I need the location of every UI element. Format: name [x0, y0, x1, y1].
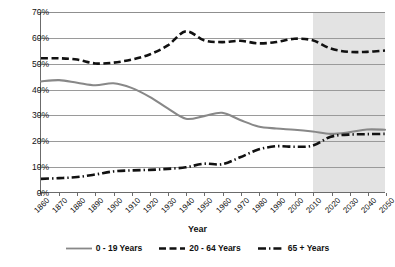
x-axis-tick-label: 2010 — [305, 196, 324, 215]
x-axis-tick-label: 1990 — [268, 196, 287, 215]
legend-swatch-dash-dot-icon — [258, 244, 284, 253]
legend-swatch-dashed-icon — [159, 244, 185, 253]
x-axis-tick-mark — [259, 193, 260, 196]
x-axis-tick-mark — [204, 193, 205, 196]
x-axis-tick-label: 1880 — [69, 196, 88, 215]
x-axis-tick-mark — [95, 193, 96, 196]
x-axis-tick-label: 1950 — [196, 196, 215, 215]
x-axis-tick-mark — [150, 193, 151, 196]
x-axis-tick-mark — [350, 193, 351, 196]
x-axis-tick-mark — [59, 193, 60, 196]
x-axis-tick-mark — [223, 193, 224, 196]
x-axis-tick-label: 1910 — [123, 196, 142, 215]
y-axis-tick-label: 40% — [9, 85, 49, 95]
x-axis-tick-label: 1970 — [232, 196, 251, 215]
legend-label: 20 - 64 Years — [189, 243, 240, 253]
y-axis-tick-label: 20% — [9, 136, 49, 146]
legend-item-3[interactable]: 65 + Years — [258, 243, 330, 253]
x-axis-tick-label: 2020 — [323, 196, 342, 215]
x-axis-tick-mark — [277, 193, 278, 196]
x-axis-tick-mark — [186, 193, 187, 196]
y-axis-tick-label: 50% — [9, 59, 49, 69]
x-axis-tick-mark — [332, 193, 333, 196]
y-axis-tick-label: 70% — [9, 7, 49, 17]
x-axis-tick-label: 2000 — [287, 196, 306, 215]
x-axis-tick-label: 1940 — [178, 196, 197, 215]
x-axis-tick-mark — [77, 193, 78, 196]
x-axis-tick-label: 1870 — [51, 196, 70, 215]
x-axis-tick-label: 2050 — [377, 196, 395, 215]
series-line-1 — [41, 80, 385, 134]
y-axis-tick-label: 30% — [9, 110, 49, 120]
legend-label: 0 - 19 Years — [96, 243, 143, 253]
x-axis-tick-label: 1900 — [105, 196, 124, 215]
x-axis-tick-mark — [368, 193, 369, 196]
x-axis-tick-mark — [114, 193, 115, 196]
legend-item-1[interactable]: 0 - 19 Years — [66, 243, 143, 253]
x-axis-tick-label: 1980 — [250, 196, 269, 215]
legend-label: 65 + Years — [288, 243, 330, 253]
plot-wrapper: 0%10%20%30%40%50%60%70% 1860187018801890… — [0, 0, 395, 200]
chart-legend: 0 - 19 Years20 - 64 Years65 + Years — [0, 243, 395, 253]
series-line-2 — [41, 31, 385, 63]
y-axis-tick-label: 60% — [9, 33, 49, 43]
x-axis-tick-mark — [132, 193, 133, 196]
x-axis-tick-label: 1930 — [160, 196, 179, 215]
legend-item-2[interactable]: 20 - 64 Years — [159, 243, 240, 253]
chart-figure: 0%10%20%30%40%50%60%70% 1860187018801890… — [0, 0, 395, 267]
x-axis-tick-label: 1920 — [141, 196, 160, 215]
plot-area — [40, 12, 385, 193]
x-axis-tick-mark — [168, 193, 169, 196]
y-axis-tick-label: 10% — [9, 162, 49, 172]
legend-swatch-solid-icon — [66, 244, 92, 253]
x-axis-title: Year — [0, 224, 395, 234]
series-layer — [41, 12, 385, 192]
x-axis-tick-label: 1890 — [87, 196, 106, 215]
x-axis-tick-label: 2030 — [341, 196, 360, 215]
x-axis-tick-label: 1960 — [214, 196, 233, 215]
x-axis-tick-mark — [313, 193, 314, 196]
series-line-3 — [41, 134, 385, 179]
x-axis-tick-label: 1860 — [32, 196, 51, 215]
x-axis-tick-label: 2040 — [359, 196, 378, 215]
x-axis-tick-mark — [386, 193, 387, 196]
x-axis-tick-mark — [241, 193, 242, 196]
x-axis-tick-mark — [295, 193, 296, 196]
